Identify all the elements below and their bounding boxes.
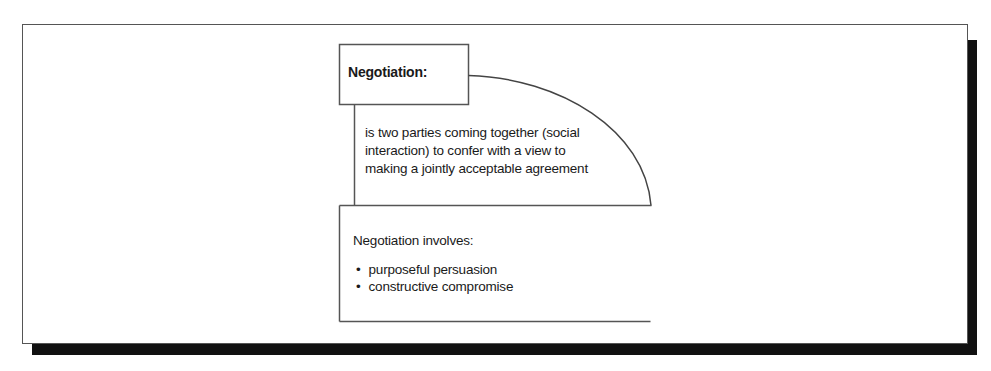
list-item: constructive compromise	[356, 278, 513, 295]
involves-list: purposeful persuasion constructive compr…	[356, 261, 513, 295]
definition-line: making a jointly acceptable agreement	[365, 160, 645, 178]
definition-line: interaction) to confer with a view to	[365, 142, 645, 160]
diagram-lines	[0, 0, 991, 371]
involves-heading: Negotiation involves:	[353, 233, 473, 248]
definition-line: is two parties coming together (social	[365, 124, 645, 142]
definition-text: is two parties coming together (social i…	[365, 124, 645, 178]
list-item: purposeful persuasion	[356, 261, 513, 278]
diagram-title: Negotiation:	[348, 64, 427, 80]
